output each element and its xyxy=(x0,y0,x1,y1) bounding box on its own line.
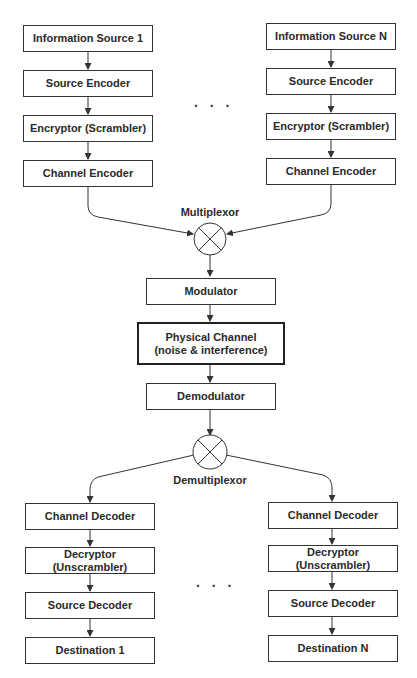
source-decoder-left-box: Source Decoder xyxy=(25,592,155,619)
encryptor-right-box: Encryptor (Scrambler) xyxy=(266,113,396,140)
demodulator-box: Demodulator xyxy=(146,383,276,410)
multiplexor-label: Multiplexor xyxy=(160,206,260,218)
demultiplexor-symbol xyxy=(193,435,227,469)
encryptor-left-box: Encryptor (Scrambler) xyxy=(23,115,153,142)
physical-channel-box: Physical Channel (noise & interference) xyxy=(137,322,285,365)
destination-1-box: Destination 1 xyxy=(25,637,155,664)
physical-channel-sublabel: (noise & interference) xyxy=(154,344,267,357)
physical-channel-label: Physical Channel xyxy=(165,331,256,344)
decryptor-left-box: Decryptor (Unscrambler) xyxy=(25,547,155,574)
channel-encoder-left-box: Channel Encoder xyxy=(23,160,153,187)
multiplexor-symbol xyxy=(194,223,226,255)
source-encoder-left-box: Source Encoder xyxy=(23,70,153,97)
modulator-box: Modulator xyxy=(146,278,276,305)
channel-decoder-left-box: Channel Decoder xyxy=(25,503,155,530)
source-encoder-right-box: Source Encoder xyxy=(266,68,396,95)
decryptor-right-box: Decryptor (Unscrambler) xyxy=(268,545,398,572)
ellipsis-top: . . . xyxy=(194,94,233,110)
information-source-n-box: Information Source N xyxy=(266,23,396,50)
destination-n-box: Destination N xyxy=(268,635,398,662)
ellipsis-bottom: . . . xyxy=(196,574,235,590)
source-decoder-right-box: Source Decoder xyxy=(268,590,398,617)
channel-encoder-right-box: Channel Encoder xyxy=(266,158,396,185)
information-source-1-box: Information Source 1 xyxy=(23,25,153,52)
channel-decoder-right-box: Channel Decoder xyxy=(268,502,398,529)
demultiplexor-label: Demultiplexor xyxy=(160,474,260,486)
